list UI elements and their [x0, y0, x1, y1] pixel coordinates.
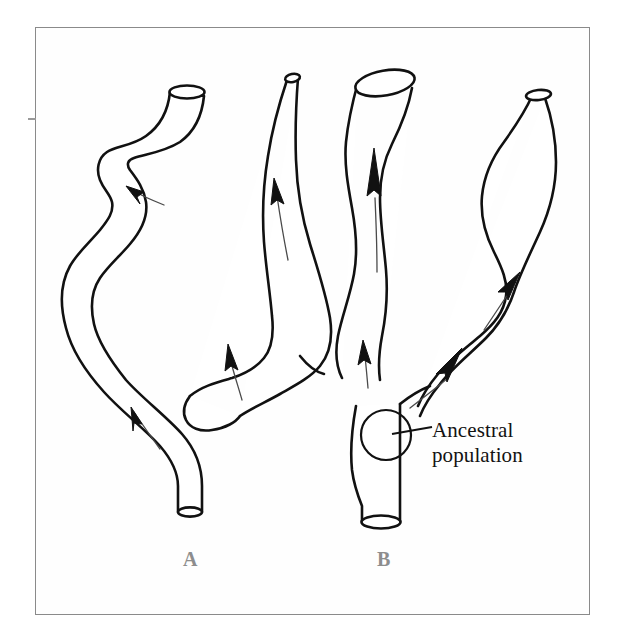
panel-b-arrow-middle-lower [358, 340, 371, 388]
lineage-diagram [0, 0, 617, 639]
panel-b-fork-detail-right [400, 386, 430, 404]
ancestral-population-label: Ancestral population [432, 418, 582, 467]
ancestral-population-label-line-2: population [432, 443, 582, 468]
panel-a-top-opening [170, 86, 205, 99]
figure-root: A B Ancestral population [0, 0, 617, 639]
panel-a-bottom-opening [178, 507, 202, 516]
panel-b-caption: B [377, 548, 391, 571]
panel-b-middle-branch-outline [336, 82, 412, 380]
panel-b-right-branch-opening [526, 89, 552, 102]
panel-a-caption: A [183, 548, 198, 571]
panel-a-tube-outline [62, 92, 204, 512]
panel-a-lineage [62, 86, 205, 517]
panel-b-junction [184, 396, 240, 431]
panel-b-arrow-middle-upper [367, 148, 381, 272]
panel-b-right-branch-outline [418, 96, 556, 416]
panel-b-bottom-opening [362, 516, 401, 529]
ancestral-population-label-line-1: Ancestral [432, 418, 582, 443]
panel-b-middle-branch-opening [353, 65, 416, 100]
panel-b-trunk-outline [351, 404, 400, 522]
